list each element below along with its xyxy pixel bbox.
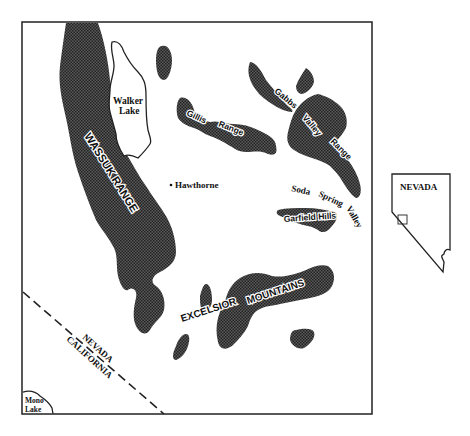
label-mono-lake-1: Mono <box>25 396 44 405</box>
map-canvas: Walker Lake WASSUK RANGE Gillis Range Ga… <box>0 0 470 436</box>
label-hawthorne: Hawthorne <box>175 180 219 190</box>
label-mono-lake-2: Lake <box>25 405 42 414</box>
hawthorne-marker <box>170 184 173 187</box>
label-walker-lake-2: Lake <box>119 106 140 116</box>
inset-state-label: NEVADA <box>400 182 438 192</box>
nevada-inset: NEVADA <box>392 174 450 272</box>
label-walker-lake-1: Walker <box>113 96 144 106</box>
